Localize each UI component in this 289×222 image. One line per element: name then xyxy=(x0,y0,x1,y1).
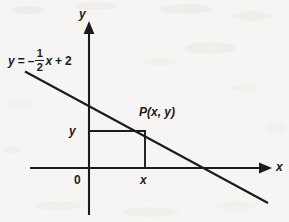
equation-fraction-one-half: 1 2 xyxy=(35,48,44,73)
x-axis-label: x xyxy=(276,161,283,173)
graph-figure: y x y 0 x P(x, y) y = – 1 2 x + 2 xyxy=(0,0,289,222)
equation-plus-sign: + xyxy=(55,55,62,67)
equation-variable: x xyxy=(45,55,52,67)
x-coordinate-label: x xyxy=(140,174,147,186)
x-axis-arrowhead xyxy=(259,163,272,174)
fraction-denominator: 2 xyxy=(36,62,44,74)
equation-label: y = – 1 2 x + 2 xyxy=(8,48,72,73)
equation-lhs: y xyxy=(8,55,15,67)
y-coordinate-label: y xyxy=(69,125,76,137)
y-axis-label: y xyxy=(79,8,86,20)
equation-minus-sign: – xyxy=(28,55,35,67)
equation-constant: 2 xyxy=(65,55,72,67)
y-axis-arrowhead xyxy=(84,21,95,34)
fraction-numerator: 1 xyxy=(36,48,44,60)
origin-label: 0 xyxy=(74,174,81,186)
equation-equals-sign: = xyxy=(18,55,25,67)
point-p-label: P(x, y) xyxy=(139,106,175,118)
